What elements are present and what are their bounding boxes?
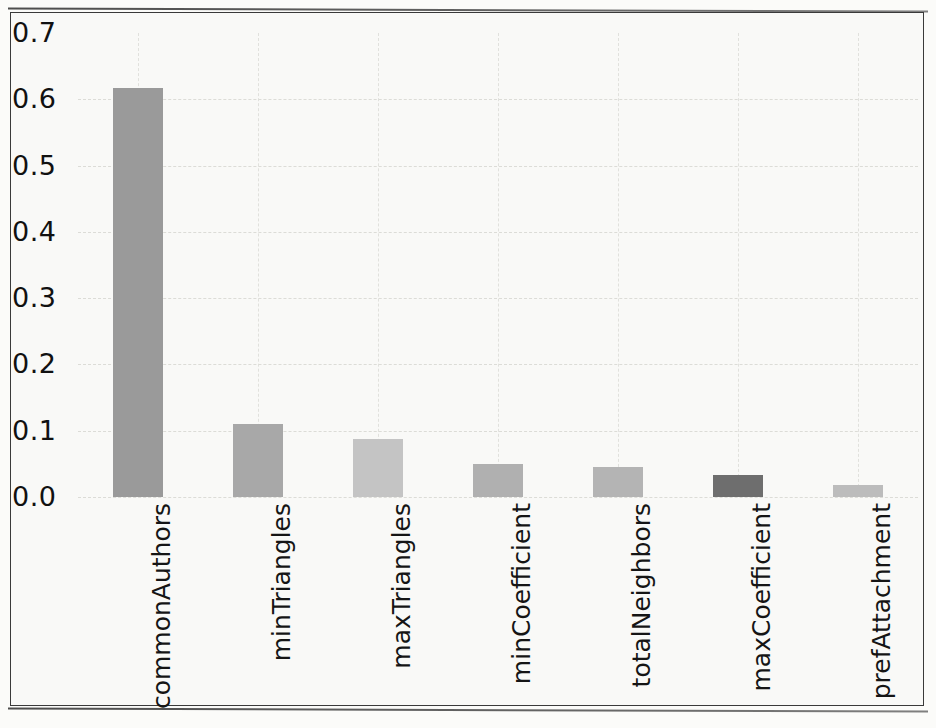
x-axis-tick-label: commonAuthors: [149, 503, 174, 709]
bar-chart: 0.00.10.20.30.40.50.60.7 commonAuthorsmi…: [0, 0, 936, 728]
bar: [233, 424, 283, 497]
x-axis-tick-labels: commonAuthorsminTrianglesmaxTrianglesmin…: [78, 503, 918, 713]
scanned-figure-page: 0.00.10.20.30.40.50.60.7 commonAuthorsmi…: [0, 0, 936, 728]
y-axis-tick-label: 0.6: [12, 85, 78, 112]
bar: [473, 464, 523, 497]
y-axis-tick-label: 0.4: [12, 218, 78, 245]
gridline-vertical: [618, 33, 619, 497]
x-axis-tick-label: minTriangles: [269, 503, 294, 661]
x-axis-tick-label: maxCoefficient: [749, 503, 774, 692]
bar: [113, 88, 163, 497]
bar: [833, 485, 883, 497]
gridline-vertical: [378, 33, 379, 497]
bar: [353, 439, 403, 497]
y-axis-tick-label: 0.3: [12, 284, 78, 311]
bar: [713, 475, 763, 497]
plot-region: [78, 33, 918, 497]
y-axis-tick-label: 0.7: [12, 19, 78, 46]
gridline-vertical: [498, 33, 499, 497]
y-axis-tick-label: 0.5: [12, 152, 78, 179]
y-axis-tick-label: 0.1: [12, 417, 78, 444]
y-axis-tick-label: 0.0: [12, 483, 78, 510]
gridline-vertical: [738, 33, 739, 497]
x-axis-tick-label: prefAttachment: [869, 503, 894, 699]
y-axis-tick-label: 0.2: [12, 350, 78, 377]
x-axis-tick-label: totalNeighbors: [629, 503, 654, 687]
gridline-vertical: [858, 33, 859, 497]
x-axis-tick-label: minCoefficient: [509, 503, 534, 684]
y-axis-tick-labels: 0.00.10.20.30.40.50.60.7: [12, 33, 78, 497]
gridline-horizontal: [78, 497, 918, 498]
bar: [593, 467, 643, 497]
x-axis-tick-label: maxTriangles: [389, 503, 414, 669]
